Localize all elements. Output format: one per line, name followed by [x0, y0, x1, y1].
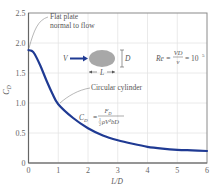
- svg-text:5: 5: [202, 53, 205, 58]
- velocity-arrow-icon: [83, 56, 88, 62]
- svg-text:ρV²bD: ρV²bD: [101, 118, 119, 125]
- x-tick-label: 4: [146, 166, 150, 175]
- svg-text:2: 2: [99, 122, 101, 127]
- drag-coefficient-equation: CD = FD 1 2 ρV²bD: [79, 107, 124, 127]
- y-tick-label: 2.5: [16, 9, 26, 18]
- svg-text:FD: FD: [103, 107, 112, 116]
- y-tick-label: 0: [22, 159, 26, 168]
- svg-text:CD: CD: [79, 113, 88, 123]
- circular-cylinder-leader: [60, 88, 90, 103]
- y-tick-label: 2.0: [16, 39, 26, 48]
- y-axis-label: CD: [2, 85, 12, 94]
- drag-coefficient-chart: 0123456 00.51.01.52.02.5 L/D CD Flat pla…: [0, 0, 217, 191]
- x-tick-label: 5: [175, 166, 179, 175]
- x-tick-label: 2: [86, 166, 90, 175]
- reynolds-number-equation: Re = VD ν = 10 5: [155, 49, 205, 65]
- svg-text:VD: VD: [174, 49, 183, 56]
- y-tick-label: 1.0: [16, 99, 26, 108]
- svg-text:ν: ν: [177, 58, 180, 65]
- x-tick-label: 1: [56, 166, 60, 175]
- svg-text:CD: CD: [2, 85, 12, 94]
- velocity-label: V: [63, 54, 69, 63]
- circular-cylinder-label: Circular cylinder: [91, 83, 143, 92]
- x-tick-label: 3: [116, 166, 120, 175]
- flat-plate-label-line2: normal to flow: [50, 21, 95, 30]
- length-label: L: [99, 68, 104, 77]
- svg-text:= 10: = 10: [185, 54, 199, 63]
- y-tick-labels: 00.51.01.52.02.5: [16, 9, 26, 168]
- elliptical-body: [89, 50, 115, 67]
- y-tick-label: 1.5: [16, 69, 26, 78]
- x-tick-label: 0: [27, 166, 31, 175]
- svg-text:Re =: Re =: [155, 54, 171, 63]
- x-axis-label: L/D: [110, 177, 123, 186]
- diameter-label: D: [124, 54, 131, 63]
- flat-plate-label-line1: Flat plate: [50, 12, 79, 21]
- svg-text:=: =: [93, 113, 97, 122]
- x-tick-label: 6: [205, 166, 209, 175]
- y-tick-label: 0.5: [16, 129, 26, 138]
- x-tick-labels: 0123456: [27, 166, 210, 175]
